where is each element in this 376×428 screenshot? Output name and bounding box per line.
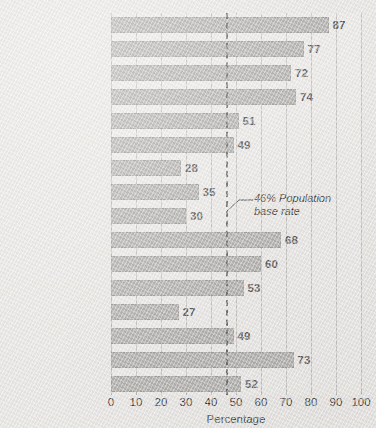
bar-natural-sciences [111,160,181,176]
bar-public-office [111,184,199,200]
bar-row [111,232,361,248]
x-tick-label-20: 20 [155,396,168,408]
bar-architecture [111,376,241,392]
bar-musical-composing [111,256,261,272]
bar-value-label: 53 [248,280,261,296]
bar-music-performance [111,232,281,248]
bar-row [111,352,361,368]
bar-row [111,280,361,296]
bar-value-label: 68 [285,232,298,248]
x-tick-label-50: 50 [230,396,243,408]
bar-row [111,304,361,320]
bar-row [111,17,361,33]
bar-value-label: 27 [183,304,196,320]
chart-title [0,0,376,3]
bar-sports [111,280,244,296]
bar-row [111,137,361,153]
bar-chart: PoetryFictionNon-fictionTheatreSocial sc… [0,0,376,428]
x-axis-title: Percentage [111,413,361,425]
bar-poetry [111,17,329,33]
x-tick-label-60: 60 [255,396,268,408]
bar-fiction [111,41,304,57]
bar-value-label: 77 [308,41,321,57]
x-tick-label-70: 70 [280,396,293,408]
bar-non-fiction [111,65,291,81]
bar-value-label: 60 [265,256,278,272]
bar-art [111,352,294,368]
bar-row [111,328,361,344]
bar-military [111,208,186,224]
bar-row [111,113,361,129]
x-tick-label-80: 80 [305,396,318,408]
bar-social-sciences [111,113,239,129]
base-rate-annotation-line2: base rate [254,205,350,218]
x-tick-label-10: 10 [130,396,143,408]
gridline-100 [361,13,362,395]
bar-exploration [111,304,179,320]
bar-value-label: 87 [333,17,346,33]
bar-row [111,41,361,57]
x-tick-label-0: 0 [108,396,114,408]
bar-value-label: 35 [203,184,216,200]
bar-row [111,256,361,272]
bar-social-activism [111,137,234,153]
x-tick-label-30: 30 [180,396,193,408]
base-rate-annotation-line1: 46% Population [254,192,350,205]
bar-theatre [111,89,296,105]
bar-value-label: 49 [238,328,251,344]
bar-value-label: 51 [243,113,256,129]
bar-row [111,89,361,105]
base-rate-dashed-line [226,13,228,395]
base-rate-annotation: 46% Population base rate [254,192,350,218]
x-tick-label-90: 90 [330,396,343,408]
bar-value-label: 49 [238,137,251,153]
bar-value-label: 74 [300,89,313,105]
x-tick-label-100: 100 [351,396,370,408]
bar-row [111,160,361,176]
x-tick-mark-100 [361,389,362,395]
bar-value-label: 73 [298,352,311,368]
bar-value-label: 30 [190,208,203,224]
bar-row [111,376,361,392]
bar-value-label: 28 [185,160,198,176]
bar-value-label: 52 [245,376,258,392]
bar-value-label: 72 [295,65,308,81]
bar-row [111,65,361,81]
x-tick-label-40: 40 [205,396,218,408]
bar-business [111,328,234,344]
